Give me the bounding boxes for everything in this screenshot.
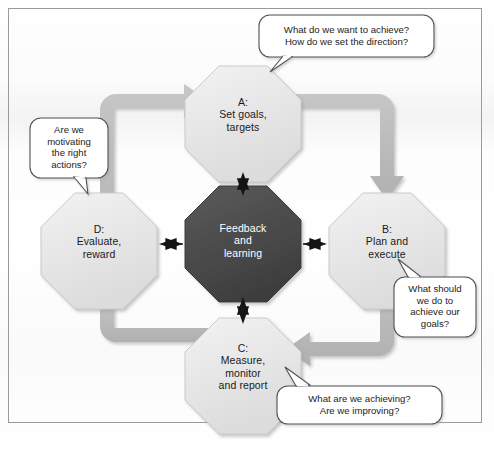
node-d-shape[interactable]: [41, 193, 157, 309]
flow-arrow-a-to-b: [286, 94, 404, 200]
diagram-artwork: [0, 0, 494, 450]
callout-top-bubble[interactable]: [259, 15, 434, 72]
callout-bottom-bubble[interactable]: [277, 367, 442, 424]
callout-left-bubble[interactable]: [30, 118, 108, 194]
diagram-canvas: A: Set goals, targets B: Plan and execut…: [0, 0, 494, 450]
node-center-shape[interactable]: [185, 186, 301, 302]
node-a-shape[interactable]: [185, 66, 301, 182]
